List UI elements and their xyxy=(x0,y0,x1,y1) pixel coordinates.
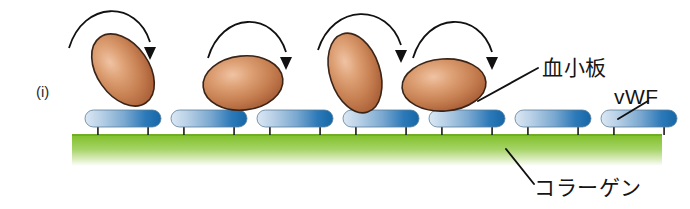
platelet-adhesion-figure: (i) 血小板 vWF コラーゲン xyxy=(0,0,690,209)
collagen-band xyxy=(72,134,662,166)
rolling-arrow-4-head xyxy=(486,57,498,70)
label-collagen: コラーゲン xyxy=(534,177,642,198)
platelet-4 xyxy=(400,56,487,114)
leader-platelet xyxy=(478,68,538,101)
vwf-bar-5 xyxy=(429,110,505,127)
vwf-bar-2 xyxy=(171,110,247,127)
vwf-bar-6 xyxy=(515,110,591,127)
platelet-1 xyxy=(79,22,167,117)
label-platelet: 血小板 xyxy=(542,57,607,78)
platelet-3 xyxy=(319,26,392,119)
vwf-bar-7 xyxy=(601,110,677,127)
collagen-layer xyxy=(72,134,662,166)
rolling-arrow-2-arc xyxy=(208,22,286,58)
vwf-bar-1 xyxy=(85,110,161,127)
rolling-arrow-4-arc xyxy=(413,22,492,58)
label-vwf: vWF xyxy=(614,86,659,107)
vwf-stem-group xyxy=(98,127,664,135)
collagen-top-edge xyxy=(72,134,662,136)
platelet-group xyxy=(79,22,488,119)
rolling-arrow-2-head xyxy=(280,57,292,70)
platelet-2 xyxy=(200,52,285,114)
vwf-bar-group xyxy=(85,110,677,127)
vwf-bar-4 xyxy=(343,110,419,127)
rolling-arrow-3-head xyxy=(395,50,407,63)
vwf-bar-3 xyxy=(257,110,333,127)
panel-label: (i) xyxy=(36,84,49,99)
